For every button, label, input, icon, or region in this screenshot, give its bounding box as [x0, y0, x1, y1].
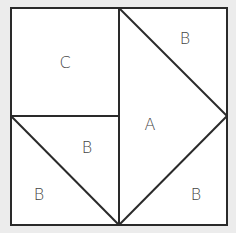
- label-region-b-bottom-left: B: [34, 185, 44, 204]
- label-region-a: A: [145, 115, 156, 134]
- label-region-b-bottom-right: B: [191, 185, 201, 204]
- label-region-c: C: [59, 53, 70, 72]
- label-region-b-top-right: B: [180, 29, 190, 48]
- label-region-b-middle: B: [82, 138, 92, 157]
- square-dissection-diagram: C B A B B B: [0, 0, 236, 233]
